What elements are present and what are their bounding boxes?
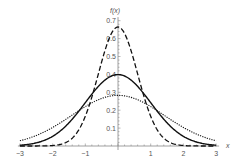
y-tick-label: 0.3	[106, 89, 116, 96]
y-tick-label: 0.1	[106, 125, 116, 132]
y-tick-label: 0.5	[106, 53, 116, 60]
y-tick-label: 0.7	[106, 17, 116, 24]
y-tick-label: 0.2	[106, 107, 116, 114]
x-tick-label: −3	[16, 150, 24, 157]
x-axis-label: x	[225, 142, 230, 149]
y-axis-label: f(x)	[110, 7, 120, 15]
chart: −3−2−11230.10.20.30.40.50.60.7 f(x) x	[0, 0, 240, 164]
x-tick-label: −1	[81, 150, 89, 157]
axes: −3−2−11230.10.20.30.40.50.60.7	[16, 17, 219, 157]
x-tick-label: 2	[181, 150, 185, 157]
x-tick-label: 3	[214, 150, 218, 157]
x-tick-label: 1	[149, 150, 153, 157]
chart-svg: −3−2−11230.10.20.30.40.50.60.7 f(x) x	[0, 0, 240, 164]
x-tick-label: −2	[49, 150, 57, 157]
